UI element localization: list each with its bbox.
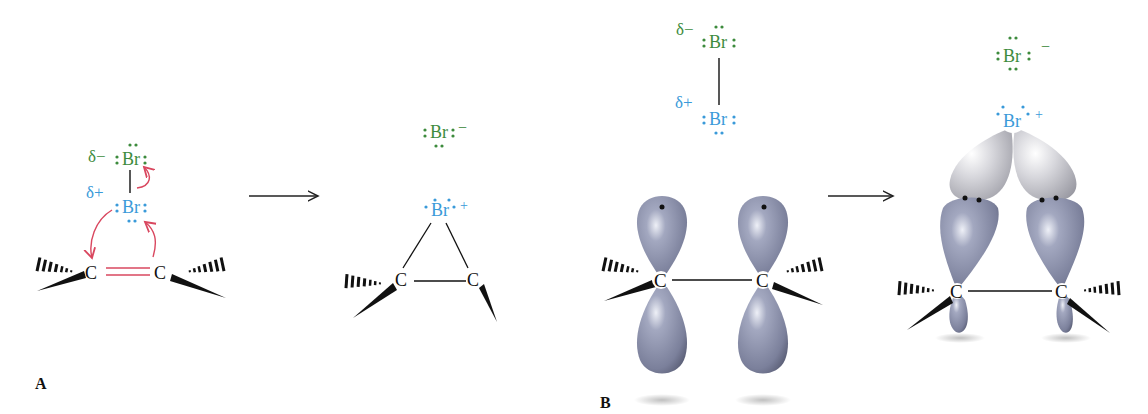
electron-dot [660, 205, 665, 210]
carbon-left: C [950, 281, 963, 302]
bromide-ion: Br − [423, 119, 467, 148]
bromine-symbol: Br [1003, 46, 1021, 66]
panel-a-product: Br − Br + C C [345, 119, 497, 322]
carbon-right: C [467, 270, 479, 290]
top-bromine: Br [702, 25, 735, 52]
carbon-right: C [1055, 281, 1068, 302]
bromine-symbol: Br [1003, 111, 1021, 131]
solid-wedge-left [604, 280, 656, 301]
panel-b-product: Br − Br [898, 36, 1121, 343]
solid-wedge-right [1067, 298, 1110, 333]
solid-wedge-left [353, 283, 397, 318]
bromine-symbol: Br [709, 109, 727, 129]
panel-b-reactant: δ− Br δ+ Br C [602, 20, 824, 406]
hashed-wedge-left [345, 274, 382, 290]
negative-charge: − [458, 119, 467, 136]
hashed-wedge-right [187, 257, 225, 278]
bromide-ion: Br − [996, 36, 1050, 70]
solid-wedge-right [479, 284, 497, 322]
delta-minus-label: δ− [676, 20, 694, 39]
carbon-right: C [154, 263, 166, 283]
top-bromine: Br [115, 143, 146, 169]
bromonium-bromine: Br + [424, 198, 468, 220]
diagram-canvas: δ− Br δ+ Br C C Br [0, 0, 1148, 414]
bromine-orbital-right [1013, 128, 1076, 201]
panel-a-reactant: δ− Br δ+ Br C C [36, 143, 226, 298]
bromonium-bromine: Br + [996, 105, 1043, 133]
bromine-symbol: Br [709, 32, 727, 52]
bromine-symbol: Br [431, 200, 449, 220]
positive-charge: + [1035, 107, 1043, 122]
solid-wedge-left [907, 296, 953, 330]
hashed-wedge-right [1084, 281, 1121, 297]
solid-wedge-right [772, 282, 823, 305]
panel-label-b: B [600, 394, 611, 411]
delta-minus-label: δ− [88, 147, 106, 166]
bottom-bromine: Br [115, 197, 146, 223]
carbon-orbital-right [1026, 196, 1091, 344]
carbon-right: C [756, 270, 769, 291]
panel-label-a: A [35, 375, 47, 392]
electron-dot [762, 205, 767, 210]
solid-wedge-left [37, 271, 86, 291]
negative-charge: − [1041, 38, 1050, 55]
positive-charge: + [460, 198, 468, 213]
bromination-mechanism-figure: δ− Br δ+ Br C C Br [0, 0, 1148, 414]
p-orbital-right [735, 196, 791, 406]
delta-plus-label: δ+ [675, 93, 693, 112]
solid-wedge-right [170, 274, 226, 298]
carbon-left: C [85, 263, 97, 283]
bottom-bromine: Br [702, 109, 735, 135]
p-orbital-left [634, 196, 690, 406]
hashed-wedge-left [36, 257, 74, 278]
carbon-orbital-left [935, 196, 999, 344]
c-br-bond-right [446, 223, 468, 268]
bromine-symbol: Br [430, 122, 448, 142]
carbon-left: C [654, 270, 667, 291]
c-br-bond-left [403, 223, 431, 268]
hashed-wedge-left [602, 257, 640, 278]
hashed-wedge-right [785, 257, 823, 278]
delta-plus-label: δ+ [86, 183, 104, 202]
curved-arrow-br-to-carbon [91, 210, 112, 258]
carbon-left: C [395, 270, 407, 290]
bromine-orbital-left [950, 128, 1013, 201]
bromine-symbol: Br [122, 197, 140, 217]
curved-arrow-pi-to-br [145, 222, 155, 257]
bromine-symbol: Br [122, 149, 140, 169]
hashed-wedge-left [898, 281, 935, 297]
curved-arrow-bond-to-br [137, 167, 149, 188]
